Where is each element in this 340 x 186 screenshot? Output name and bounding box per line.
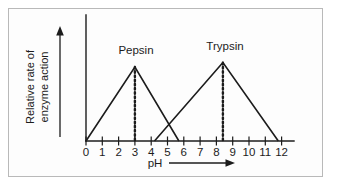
x-axis-title: pH: [148, 157, 163, 169]
figure-frame: Relative rate of enzyme action: [8, 8, 323, 177]
y-axis-title-line2: enzyme action: [38, 52, 50, 123]
x-tick-label-5: 5: [164, 146, 170, 158]
x-axis-direction-arrow-head: [226, 159, 236, 167]
x-tick-label-3: 3: [132, 146, 138, 158]
x-axis-tick-labels: 0 1 2 3 4 5 6 7 8 9 10 11 12: [83, 146, 288, 158]
x-axis-title-group: pH: [148, 157, 235, 169]
x-tick-label-0: 0: [83, 146, 89, 158]
x-tick-label-7: 7: [197, 146, 203, 158]
x-tick-label-9: 9: [229, 146, 235, 158]
series-label-trypsin: Trypsin: [206, 40, 243, 52]
y-axis-title-line1: Relative rate of: [24, 49, 36, 124]
x-tick-label-1: 1: [99, 146, 105, 158]
series-curve-trypsin: [155, 63, 279, 142]
x-tick-label-10: 10: [243, 146, 256, 158]
x-tick-label-12: 12: [275, 146, 288, 158]
y-axis-direction-arrow-head: [56, 26, 64, 36]
series-label-pepsin: Pepsin: [118, 44, 153, 56]
x-tick-label-8: 8: [213, 146, 219, 158]
enzyme-activity-chart: Relative rate of enzyme action: [9, 9, 322, 176]
y-axis-title-group: Relative rate of enzyme action: [24, 26, 64, 137]
x-tick-label-11: 11: [259, 146, 271, 158]
x-tick-label-2: 2: [115, 146, 121, 158]
x-tick-label-6: 6: [181, 146, 187, 158]
